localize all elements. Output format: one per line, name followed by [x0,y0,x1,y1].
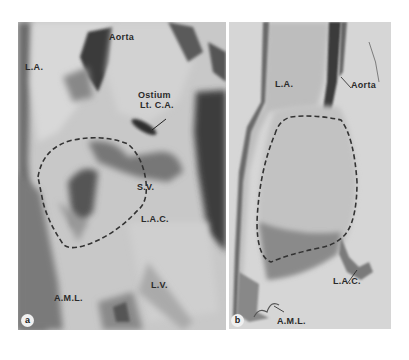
label-sv-a: S.V. [137,182,154,192]
label-aml-b: A.M.L. [277,316,306,326]
label-aorta-b: Aorta [351,80,376,90]
panel-letter-a: a [21,314,34,327]
photo-panel-a: Aorta L.A. Ostium Lt. C.A. S.V. L.A.C. L… [18,22,226,330]
anatomy-photo-a [18,22,226,330]
label-aorta-a: Aorta [109,32,134,42]
label-ostium-line2: Lt. C.A. [140,100,174,110]
panel-letter-b: b [231,314,244,327]
label-la-b: L.A. [275,79,293,89]
label-aml-a: A.M.L. [54,293,83,303]
label-lac-b: L.A.C. [333,276,361,286]
label-lv-a: L.V. [151,280,168,290]
label-ostium-line1: Ostium [138,90,171,100]
label-lac-a: L.A.C. [141,214,169,224]
anatomy-photo-b [229,22,391,329]
label-la-a: L.A. [25,62,43,72]
photo-panel-b: L.A. Aorta L.A.C. A.M.L. b [229,22,391,329]
